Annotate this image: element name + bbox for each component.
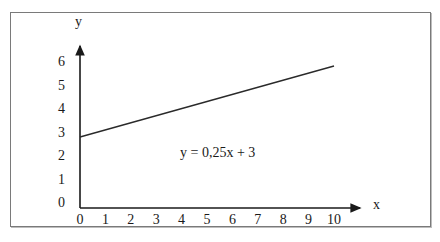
x-tick-label: 7 [254, 213, 261, 227]
equation-label: y = 0,25x + 3 [180, 146, 255, 160]
x-tick-label: 5 [204, 213, 211, 227]
x-tick-label: 6 [229, 213, 236, 227]
equation-line [80, 66, 334, 137]
y-tick-label: 5 [58, 79, 65, 93]
y-axis-label: y [75, 15, 82, 29]
y-tick-label: 3 [58, 126, 65, 140]
x-tick-label: 2 [127, 213, 134, 227]
x-tick-label: 0 [77, 213, 84, 227]
y-tick-label: 6 [58, 55, 65, 69]
y-tick-label: 1 [58, 173, 65, 187]
x-tick-label: 8 [280, 213, 287, 227]
x-axis-label: x [373, 198, 380, 212]
x-tick-label: 9 [305, 213, 312, 227]
y-tick-label: 0 [58, 196, 65, 210]
y-tick-label: 2 [58, 149, 65, 163]
x-tick-label: 10 [327, 213, 341, 227]
y-tick-label: 4 [58, 102, 65, 116]
x-tick-label: 1 [102, 213, 109, 227]
x-tick-label: 4 [178, 213, 185, 227]
x-tick-label: 3 [153, 213, 160, 227]
